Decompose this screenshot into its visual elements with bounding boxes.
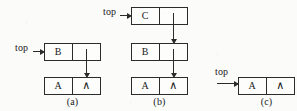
panel-c-top-label: top <box>215 67 228 77</box>
panel-c-node-0-null: ∧ <box>267 78 294 94</box>
panel-b-node-0-data: C <box>132 8 160 24</box>
panel-c-node-0-data: A <box>239 78 267 94</box>
panel-b-caption: (b) <box>134 97 185 107</box>
panel-b-node-2: A ∧ <box>131 77 188 95</box>
panel-a-node-0: B <box>44 43 101 61</box>
panel-c-caption: (c) <box>241 97 292 107</box>
panel-a-node-1-data: A <box>45 78 73 94</box>
panel-b-node-2-data: A <box>132 78 160 94</box>
panel-b-link-arrow-1-to-2 <box>170 49 177 77</box>
panel-a-node-1-null: ∧ <box>73 78 100 94</box>
panel-b-top-label: top <box>103 7 116 17</box>
panel-a-node-0-data: B <box>45 44 73 60</box>
panel-a-node-1: A ∧ <box>44 77 101 95</box>
linked-list-figure: top B A ∧ (a) top C B <box>0 0 297 111</box>
panel-b-node-2-null: ∧ <box>160 78 187 94</box>
panel-a-top-label: top <box>15 43 28 53</box>
panel-b-link-arrow-0-to-1 <box>170 13 177 43</box>
panel-a-top-arrow <box>33 48 44 55</box>
panel-a-link-arrow-0-to-1 <box>83 49 90 77</box>
panel-b-node-0: C <box>131 7 188 25</box>
panel-b-node-1: B <box>131 43 188 61</box>
panel-a-caption: (a) <box>47 97 98 107</box>
panel-c-top-arrow <box>217 80 238 87</box>
panel-b-top-arrow <box>120 12 131 19</box>
panel-c-node-0: A ∧ <box>238 77 295 95</box>
panel-b-node-1-data: B <box>132 44 160 60</box>
